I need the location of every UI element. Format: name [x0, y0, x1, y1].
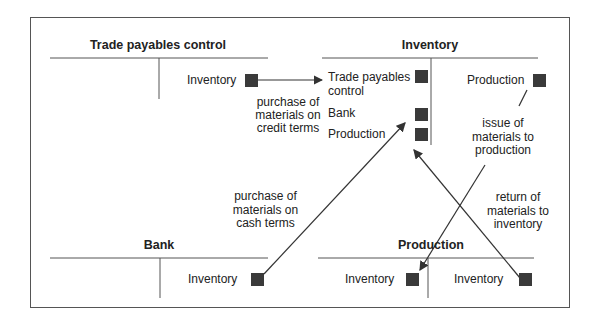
- prod-debit-marker: [406, 273, 419, 286]
- inv-credit-marker: [533, 74, 546, 87]
- tp-marker: [245, 74, 258, 87]
- issue-label: issue of materials to production: [468, 117, 538, 158]
- return-line1: return of: [483, 191, 553, 205]
- return-label: return of materials to inventory: [483, 191, 553, 232]
- cash-purchase-line2: materials on: [228, 204, 303, 218]
- bank-title: Bank: [59, 238, 259, 252]
- inv-production-marker: [415, 128, 428, 141]
- trade-payables-title: Trade payables control: [58, 38, 258, 52]
- issue-line1: issue of: [468, 117, 538, 131]
- inventory-title: Inventory: [330, 38, 530, 52]
- return-line2: materials to: [483, 205, 553, 219]
- prod-debit-inventory: Inventory: [345, 272, 394, 286]
- prod-credit-inventory: Inventory: [454, 272, 503, 286]
- cash-purchase-line1: purchase of: [228, 190, 303, 204]
- cash-purchase-label: purchase of materials on cash terms: [228, 190, 303, 231]
- cash-purchase-line3: cash terms: [228, 217, 303, 231]
- inv-credit-production: Production: [467, 73, 524, 87]
- credit-purchase-label: purchase of materials on credit terms: [253, 96, 323, 135]
- inv-debit-production: Production: [328, 127, 385, 141]
- production-title: Production: [331, 238, 531, 252]
- bank-credit-inventory: Inventory: [188, 272, 237, 286]
- return-line3: inventory: [483, 218, 553, 232]
- inv-debit-bank: Bank: [328, 106, 355, 120]
- inv-tp-marker: [415, 70, 428, 83]
- inv-debit-tp2: control: [328, 84, 364, 98]
- inv-debit-tp1: Trade payables: [328, 70, 410, 84]
- issue-line3: production: [468, 144, 538, 158]
- credit-purchase-line3: credit terms: [253, 122, 323, 135]
- inv-bank-marker: [415, 108, 428, 121]
- tp-credit-inventory: Inventory: [187, 73, 236, 87]
- bank-marker: [251, 273, 264, 286]
- issue-line2: materials to: [468, 131, 538, 145]
- prod-credit-marker: [519, 273, 532, 286]
